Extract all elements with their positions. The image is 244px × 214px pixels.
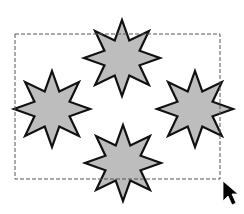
star-right[interactable] <box>157 71 233 147</box>
drawing-canvas[interactable] <box>0 0 244 214</box>
star-left[interactable] <box>14 71 90 147</box>
star-bottom[interactable] <box>85 125 161 201</box>
star-top[interactable] <box>84 20 160 96</box>
